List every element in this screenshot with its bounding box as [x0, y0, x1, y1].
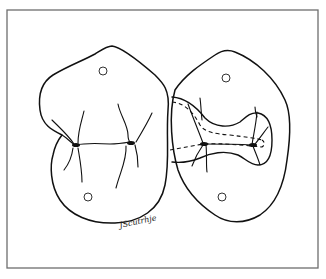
right-top-marker-icon [222, 74, 230, 82]
right-distal-pit [249, 143, 257, 147]
left-central-groove [75, 142, 130, 145]
left-mesial-pit [72, 143, 80, 147]
left-tooth-outline [40, 46, 169, 223]
right-tooth [170, 50, 290, 221]
left-top-marker-icon [99, 67, 107, 75]
dental-illustration: JScutrhje [0, 0, 326, 279]
right-mesial-pit [200, 142, 208, 146]
right-bottom-marker-icon [218, 193, 226, 201]
artist-signature: JScutrhje [117, 213, 158, 230]
figure-canvas: JScutrhje [0, 0, 326, 279]
left-distal-pit [127, 141, 135, 145]
right-prep-outline [172, 97, 272, 165]
left-tooth [40, 46, 169, 223]
right-prep-dashed-outline [172, 102, 262, 140]
left-bottom-marker-icon [84, 193, 92, 201]
